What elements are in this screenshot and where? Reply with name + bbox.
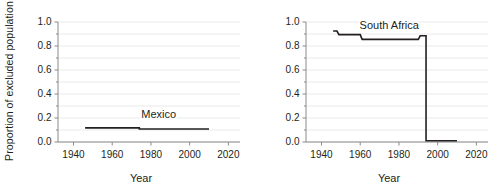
x-tick-label: 1940 xyxy=(62,149,85,160)
series-label: Mexico xyxy=(141,108,176,120)
y-tick-label: 0.0 xyxy=(286,136,300,147)
x-axis-title-right: Year xyxy=(344,172,400,184)
y-tick-label: 0.8 xyxy=(38,40,52,51)
plot-area-south-africa: 0.00.20.40.60.81.019401960198020002020So… xyxy=(248,0,496,194)
x-axis-title-right-wrap: Year xyxy=(248,172,496,184)
y-tick-label: 0.4 xyxy=(286,88,300,99)
series-line xyxy=(85,128,209,129)
plot-area-mexico: 0.00.20.40.60.81.019401960198020002020Me… xyxy=(0,0,248,194)
y-tick-label: 0.2 xyxy=(286,112,300,123)
x-tick-label: 1940 xyxy=(310,149,333,160)
x-tick-label: 1980 xyxy=(388,149,411,160)
figure-two-panel-line-chart: Proportion of excluded population 0.00.2… xyxy=(0,0,497,194)
x-tick-label: 1980 xyxy=(140,149,163,160)
x-tick-label: 1960 xyxy=(349,149,372,160)
x-tick-label: 2020 xyxy=(217,149,240,160)
y-tick-label: 1.0 xyxy=(286,16,300,27)
y-tick-label: 0.4 xyxy=(38,88,52,99)
y-tick-label: 0.6 xyxy=(38,64,52,75)
y-tick-label: 0.2 xyxy=(38,112,52,123)
panel-mexico: Proportion of excluded population 0.00.2… xyxy=(0,0,248,194)
x-axis-title-left-wrap: Year xyxy=(0,172,248,184)
x-axis-title-left: Year xyxy=(96,172,152,184)
x-tick-label: 1960 xyxy=(101,149,124,160)
y-tick-label: 1.0 xyxy=(38,16,52,27)
x-tick-label: 2000 xyxy=(179,149,202,160)
x-tick-label: 2020 xyxy=(465,149,488,160)
x-tick-label: 2000 xyxy=(427,149,450,160)
series-line xyxy=(333,31,457,141)
y-tick-label: 0.6 xyxy=(286,64,300,75)
y-tick-label: 0.0 xyxy=(38,136,52,147)
series-label: South Africa xyxy=(360,19,420,31)
y-tick-label: 0.8 xyxy=(286,40,300,51)
panel-south-africa: 0.00.20.40.60.81.019401960198020002020So… xyxy=(248,0,496,194)
